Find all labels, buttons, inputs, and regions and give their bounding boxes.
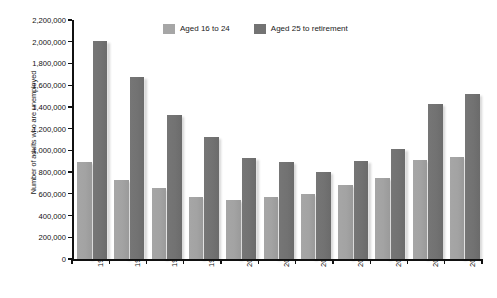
bar-2009-adult: [428, 104, 443, 259]
y-axis-tick-label: 200,000: [39, 233, 66, 242]
bar-2001-adult: [242, 158, 257, 259]
y-axis-tick-label: 1,600,000: [32, 81, 66, 90]
bar-2008-young: [375, 178, 390, 259]
bar-1999-adult: [204, 137, 219, 259]
bar-1999-young: [189, 197, 204, 259]
y-axis-tick: [68, 106, 73, 107]
x-axis-tick: [71, 259, 72, 264]
bar-2008-adult: [391, 149, 406, 259]
bar-1995-adult: [130, 77, 145, 260]
y-axis-tick-label: 2,000,000: [32, 37, 66, 46]
y-axis-tick: [68, 150, 73, 151]
bar-2010-adult: [465, 94, 480, 259]
y-axis-tick: [68, 63, 73, 64]
y-axis-tick-label: 1,400,000: [32, 102, 66, 111]
y-axis-tick: [68, 41, 73, 42]
bar-2009-young: [413, 160, 428, 259]
bar-2003-adult: [279, 162, 294, 259]
y-axis-tick: [68, 171, 73, 172]
y-axis-tick-label: 2,200,000: [32, 16, 66, 25]
bar-2010-young: [450, 157, 465, 259]
bar-2003-young: [264, 197, 279, 259]
plot-area: 0200,000400,000600,000800,0001,000,0001,…: [72, 20, 482, 259]
bar-1995-young: [114, 180, 129, 259]
y-axis-tick-label: 1,800,000: [32, 59, 66, 68]
bar-1993-young: [77, 162, 92, 259]
bar-2007-young: [338, 185, 353, 259]
y-axis-tick: [68, 128, 73, 129]
y-axis-tick-label: 600,000: [39, 189, 66, 198]
bar-1993-adult: [93, 41, 108, 259]
y-axis-line: [72, 20, 74, 260]
y-axis-tick: [68, 85, 73, 86]
bar-2005-adult: [316, 172, 331, 259]
bar-2005-young: [301, 194, 316, 259]
y-axis-tick: [68, 237, 73, 238]
y-axis-tick: [68, 215, 73, 216]
bar-1997-young: [152, 188, 167, 259]
y-axis-tick-label: 400,000: [39, 211, 66, 220]
y-axis-tick-label: 1,200,000: [32, 124, 66, 133]
y-axis-tick-label: 1,000,000: [32, 146, 66, 155]
bar-chart: Number of adults who are unemployed Aged…: [0, 0, 497, 298]
bar-1997-adult: [167, 115, 182, 259]
y-axis-tick-label: 800,000: [39, 168, 66, 177]
y-axis-tick: [68, 193, 73, 194]
y-axis-tick-label: 0: [62, 255, 66, 264]
bar-2001-young: [226, 200, 241, 259]
bar-2007-adult: [354, 161, 369, 259]
y-axis-tick: [68, 19, 73, 20]
